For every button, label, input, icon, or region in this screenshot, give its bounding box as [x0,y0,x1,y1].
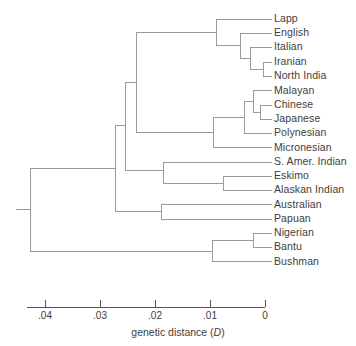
taxon-label-chinese: Chinese [274,99,313,110]
axis-tick-label-03: .03 [93,310,107,321]
axis-caption: genetic distance (D) [0,326,356,338]
axis-caption-prefix: genetic distance ( [131,326,213,338]
taxon-label-micronesian: Micronesian [274,142,332,153]
taxon-label-japanese: Japanese [274,113,320,124]
taxon-label-australian: Australian [274,199,322,210]
taxon-label-papuan: Papuan [274,213,311,224]
taxon-label-s-amer-indian: S. Amer. Indian [274,156,347,167]
taxon-label-lapp: Lapp [274,13,298,24]
taxon-label-bantu: Bantu [274,241,302,252]
taxon-label-eskimo: Eskimo [274,170,309,181]
taxon-label-north-india: North India [274,70,326,81]
taxon-label-english: English [274,27,309,38]
axis-tick-label-02: .02 [148,310,162,321]
taxon-label-bushman: Bushman [274,256,319,267]
axis-tick-label-04: .04 [38,310,52,321]
taxon-label-italian: Italian [274,41,303,52]
taxon-label-iranian: Iranian [274,56,307,67]
axis-caption-suffix: ) [221,326,225,338]
axis-tick-label-0: 0 [262,310,268,321]
phylogenetic-tree-figure: Lapp English Italian Iranian North India… [0,0,356,346]
taxon-label-nigerian: Nigerian [274,227,314,238]
taxon-label-polynesian: Polynesian [274,127,326,138]
axis [27,300,265,307]
axis-tick-label-01: .01 [203,310,217,321]
taxon-label-malayan: Malayan [274,85,314,96]
taxon-label-alaskan-indian: Alaskan Indian [274,184,344,195]
